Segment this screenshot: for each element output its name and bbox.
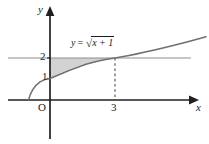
equation-lhs: y — [71, 37, 75, 48]
y-tick-label-2: 2 — [40, 51, 46, 62]
y-axis-arrow-icon — [46, 6, 55, 16]
graph-figure: y x 2 1 O 3 y=√x + 1 — [0, 0, 209, 144]
x-tick-label-3: 3 — [111, 102, 117, 113]
origin-label: O — [38, 102, 46, 113]
x-axis-label: x — [196, 102, 201, 113]
y-tick-label-1: 1 — [42, 71, 48, 82]
y-axis-label: y — [38, 4, 43, 15]
curve-equation-annotation: y=√x + 1 — [71, 36, 114, 49]
equation-sqrt-group: √x + 1 — [85, 36, 114, 49]
shaded-area-region — [50, 58, 115, 79]
plot-canvas — [0, 0, 209, 144]
equation-equals: = — [77, 37, 83, 48]
equation-radicand: x + 1 — [91, 36, 114, 48]
